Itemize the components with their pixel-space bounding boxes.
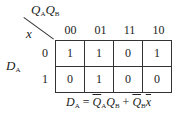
column-variables-label: QAQB bbox=[31, 3, 60, 21]
boolean-equation: DA = QAQB + QBx bbox=[66, 95, 151, 113]
kmap-cell: 0 bbox=[114, 67, 143, 93]
kmap-cell: 1 bbox=[56, 41, 85, 67]
column-header: 11 bbox=[115, 24, 144, 36]
kmap-cell: 0 bbox=[143, 67, 172, 93]
column-header: 00 bbox=[56, 24, 85, 36]
karnaugh-map-grid: 1 1 0 1 0 1 0 0 bbox=[55, 40, 172, 93]
kmap-row: 0 1 0 0 bbox=[56, 67, 172, 93]
kmap-cell: 1 bbox=[85, 41, 114, 67]
kmap-cell: 0 bbox=[56, 67, 85, 93]
row-header: 1 bbox=[42, 73, 48, 85]
kmap-cell: 0 bbox=[114, 41, 143, 67]
kmap-cell: 1 bbox=[143, 41, 172, 67]
column-header: 10 bbox=[144, 24, 173, 36]
row-header: 0 bbox=[42, 47, 48, 59]
row-variable-label: x bbox=[26, 27, 32, 40]
output-label: DA bbox=[6, 59, 20, 77]
kmap-cell: 1 bbox=[85, 67, 114, 93]
kmap-row: 1 1 0 1 bbox=[56, 41, 172, 67]
column-header: 01 bbox=[86, 24, 115, 36]
